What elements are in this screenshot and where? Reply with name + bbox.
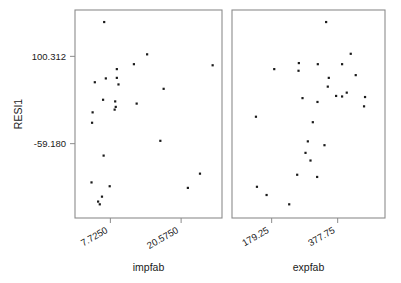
data-point-12	[136, 103, 138, 105]
data-point-17	[159, 140, 161, 142]
x-tick-label-1: 377.75	[306, 224, 337, 248]
panel-frame	[75, 10, 222, 218]
data-point-1	[350, 53, 352, 55]
data-point-6	[297, 70, 299, 72]
y-axis-title: RESI1	[12, 99, 24, 130]
data-point-1	[146, 53, 148, 55]
data-point-14	[114, 109, 116, 111]
data-point-0	[325, 21, 327, 23]
data-point-3	[212, 64, 214, 66]
data-point-4	[116, 68, 118, 70]
data-point-18	[103, 155, 105, 157]
data-point-7	[355, 74, 357, 76]
data-point-25	[256, 186, 258, 188]
x-axis-title: expfab	[293, 261, 325, 273]
data-point-23	[101, 196, 103, 198]
data-point-3	[317, 63, 319, 65]
data-point-11	[335, 95, 337, 97]
data-point-24	[97, 200, 99, 202]
data-point-16	[91, 122, 93, 124]
data-point-19	[199, 173, 201, 175]
data-point-11	[114, 100, 116, 102]
data-point-13	[115, 106, 117, 108]
data-point-23	[296, 174, 298, 176]
x-axis-title: impfab	[133, 261, 165, 273]
data-point-16	[363, 105, 365, 107]
data-point-7	[94, 81, 96, 83]
data-point-9	[163, 88, 165, 90]
data-point-12	[341, 95, 343, 97]
data-point-25	[99, 203, 101, 205]
data-point-22	[187, 187, 189, 189]
data-point-5	[116, 77, 118, 79]
data-point-10	[346, 92, 348, 94]
data-point-4	[341, 63, 343, 65]
data-point-15	[92, 111, 94, 113]
impfab-panel: 7.725020.5750impfab	[75, 10, 222, 273]
data-point-2	[133, 63, 135, 65]
data-point-14	[301, 97, 303, 99]
scatterplot-figure: 100.312-59.180RESI17.725020.5750impfab17…	[0, 0, 401, 283]
data-point-20	[323, 144, 325, 146]
data-point-17	[255, 116, 257, 118]
data-point-21	[304, 152, 306, 154]
data-point-10	[102, 99, 104, 101]
data-point-18	[312, 121, 314, 123]
data-point-8	[328, 77, 330, 79]
data-point-24	[316, 176, 318, 178]
x-tick-label-0: 179.25	[240, 224, 271, 248]
data-point-0	[103, 21, 105, 23]
data-point-13	[364, 96, 366, 98]
data-point-15	[316, 101, 318, 103]
data-point-19	[307, 140, 309, 142]
data-point-9	[327, 86, 329, 88]
data-point-8	[117, 83, 119, 85]
data-point-27	[288, 203, 290, 205]
x-tick-label-1: 20.5750	[145, 224, 180, 251]
y-axis: 100.312-59.180	[32, 51, 75, 149]
plot-canvas: 100.312-59.180RESI17.725020.5750impfab17…	[0, 0, 401, 283]
data-point-20	[90, 181, 92, 183]
y-tick-label-0: 100.312	[32, 51, 66, 62]
expfab-panel: 179.25377.75expfab	[232, 10, 385, 273]
data-point-6	[105, 77, 107, 79]
panel-frame	[232, 10, 385, 218]
data-point-21	[109, 185, 111, 187]
data-point-5	[273, 68, 275, 70]
data-point-26	[265, 194, 267, 196]
data-point-22	[309, 159, 311, 161]
y-tick-label-1: -59.180	[34, 138, 66, 149]
x-tick-label-0: 7.7250	[79, 224, 110, 248]
data-point-2	[298, 62, 300, 64]
